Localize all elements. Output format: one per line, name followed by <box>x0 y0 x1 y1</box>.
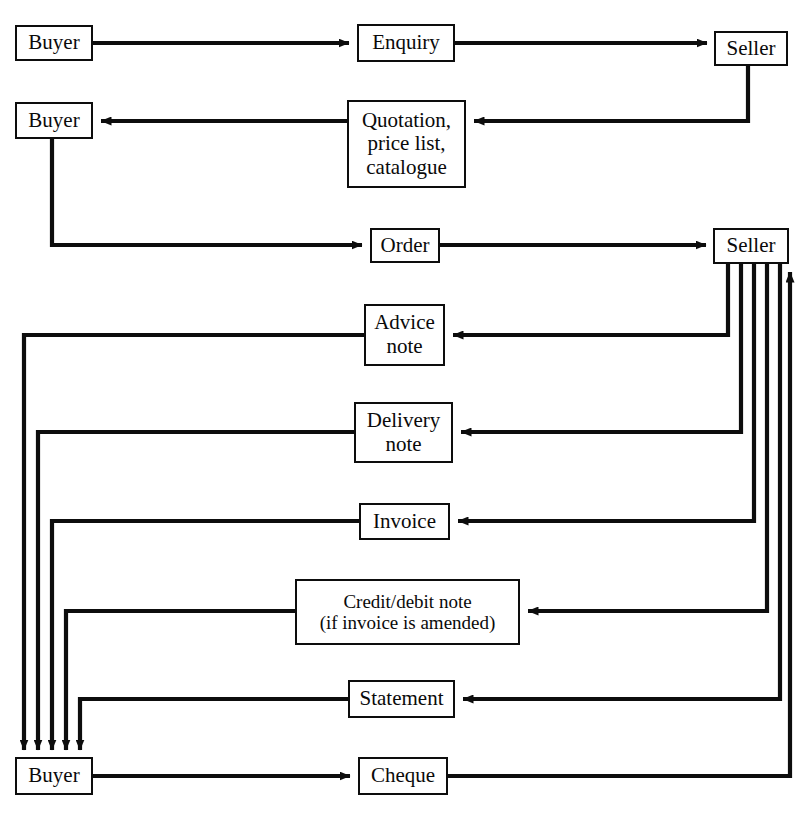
edge-advice-buyer3 <box>24 335 364 750</box>
node-label: Advice note <box>370 311 439 358</box>
node-label: Seller <box>723 234 780 258</box>
node-enquiry[interactable]: Enquiry <box>357 24 455 62</box>
node-order[interactable]: Order <box>370 228 440 263</box>
node-label: Delivery note <box>363 409 444 456</box>
node-delivery-note[interactable]: Delivery note <box>354 402 453 463</box>
node-label: Seller <box>723 37 780 61</box>
node-label: Invoice <box>369 510 440 534</box>
flowchart-canvas: Buyer Enquiry Seller Buyer Quotation, pr… <box>0 0 804 819</box>
node-buyer-1[interactable]: Buyer <box>15 25 93 61</box>
node-label: Credit/debit note (if invoice is amended… <box>316 591 500 634</box>
node-label: Statement <box>356 687 448 711</box>
node-label: Quotation, price list, catalogue <box>358 109 455 180</box>
node-invoice[interactable]: Invoice <box>359 503 450 540</box>
node-buyer-2[interactable]: Buyer <box>15 102 93 139</box>
edge-statement-buyer3 <box>80 699 348 750</box>
edge-buyer2-order <box>52 139 362 245</box>
edge-seller2-delivery <box>461 264 741 432</box>
edge-seller1-quotation <box>474 66 748 121</box>
node-credit-debit-note[interactable]: Credit/debit note (if invoice is amended… <box>295 579 520 645</box>
node-label: Buyer <box>24 109 83 133</box>
node-buyer-3[interactable]: Buyer <box>15 757 93 795</box>
node-advice-note[interactable]: Advice note <box>364 304 445 366</box>
node-seller-1[interactable]: Seller <box>714 31 788 66</box>
node-label: Buyer <box>24 764 83 788</box>
node-label: Enquiry <box>368 31 444 55</box>
node-label: Order <box>377 234 434 258</box>
node-cheque[interactable]: Cheque <box>358 757 448 795</box>
edge-credit-buyer3 <box>66 611 295 750</box>
node-label: Buyer <box>24 31 83 55</box>
edge-seller2-invoice <box>458 264 754 521</box>
edge-seller2-credit <box>528 264 767 611</box>
node-seller-2[interactable]: Seller <box>713 228 789 264</box>
edge-seller2-advice <box>453 264 728 335</box>
node-quotation-price-list-catalogue[interactable]: Quotation, price list, catalogue <box>347 100 466 188</box>
node-statement[interactable]: Statement <box>348 680 455 718</box>
node-label: Cheque <box>367 764 439 788</box>
